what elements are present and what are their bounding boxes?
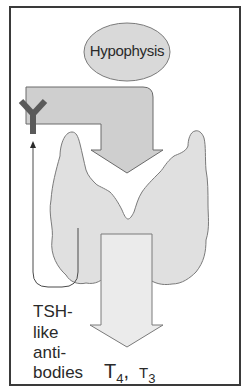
feedback-arrowhead: [30, 141, 36, 148]
hypophysis-label: Hypophysis: [84, 43, 170, 58]
bent-stimulation-arrow: [26, 87, 163, 173]
antibody-label-line-1: TSH-: [33, 303, 73, 320]
antibody-label-line-2: like: [33, 324, 59, 341]
t3-label: T3: [139, 364, 155, 381]
antibody-label-line-3: anti-: [33, 344, 66, 361]
hormone-labels: T4,T3: [104, 361, 155, 385]
antibody-label-line-4: bodies: [33, 364, 83, 381]
t4-label: T4,: [104, 360, 129, 382]
hormone-output-arrow: [90, 234, 163, 347]
